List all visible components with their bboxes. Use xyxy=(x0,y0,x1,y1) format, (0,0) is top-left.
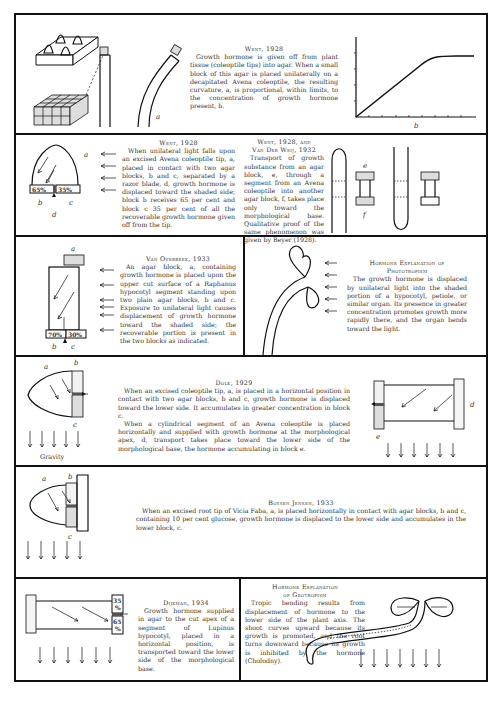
panel-phototropism: Hormone Explanation of Phototropism The … xyxy=(245,237,486,355)
panel-title-line1: Hormone Explanation of xyxy=(347,259,467,267)
svg-text:a: a xyxy=(71,245,75,253)
svg-text:35%: 35% xyxy=(58,186,72,193)
transport-illustration: e f xyxy=(242,135,486,235)
svg-text:d: d xyxy=(470,401,475,409)
panel-title: Van Overbeek, 1933 xyxy=(120,255,236,263)
panel-dolk-1929: a b c d e Gravity Dolk, 1929 When an exc… xyxy=(16,357,486,465)
svg-text:30%: 30% xyxy=(68,331,82,338)
svg-text:c: c xyxy=(73,421,77,429)
svg-text:65%: 65% xyxy=(32,186,46,193)
panel-text: The growth hormone is displaced by unila… xyxy=(347,275,467,332)
panel-went-1928-curvature: a b Went, 1928 Growth hormone is given o… xyxy=(16,15,486,133)
svg-text:e: e xyxy=(363,162,367,170)
svg-text:a: a xyxy=(44,363,48,371)
svg-text:e: e xyxy=(376,433,380,441)
panel-title-line2: Phototropism xyxy=(347,267,467,275)
figure-page: a b Went, 1928 Growth hormone is given o… xyxy=(14,13,488,682)
panel-geotropism: Hormone Explanation of Geotropism Tropic… xyxy=(241,579,486,682)
panel-text: Growth hormone is given off from plant t… xyxy=(190,53,338,110)
svg-text:a: a xyxy=(84,151,88,159)
panel-van-overbeek-1933: 70% 30% a b c Van Overbeek, 1933 An agar… xyxy=(16,237,242,355)
boysen-jensen-description: Boysen Jensen, 1933 When an excised root… xyxy=(136,499,466,532)
svg-text:c: c xyxy=(69,199,73,207)
svg-text:b: b xyxy=(52,343,57,351)
went-1928-light-description: Went, 1928 When unilateral light falls u… xyxy=(122,139,235,229)
dijkman-description: Dijkman, 1934 Growth hormone supplied in… xyxy=(138,599,234,673)
panel-text: When unilateral light falls upon an exci… xyxy=(122,147,235,229)
panel-title: Dijkman, 1934 xyxy=(138,599,234,607)
panel-text: An agar block, a, containing growth horm… xyxy=(120,263,236,345)
panel-text-1: When an excised coleoptile tip, a, is pl… xyxy=(118,387,350,420)
svg-text:a: a xyxy=(42,475,46,483)
svg-text:c: c xyxy=(71,343,75,351)
panel-text: When an excised root tip of Vicia Faba, … xyxy=(136,507,466,532)
went-1928-description: Went, 1928 Growth hormone is given off f… xyxy=(190,45,338,111)
panel-boysen-jensen-1933: a b c Boysen Jensen, 1933 When an excise… xyxy=(16,467,486,577)
panel-went-1928-light: 65% 35% b c d a Went, 1928 When unilater… xyxy=(16,135,241,235)
svg-text:70%: 70% xyxy=(48,331,62,338)
svg-text:c: c xyxy=(68,533,72,541)
van-overbeek-description: Van Overbeek, 1933 An agar block, a, con… xyxy=(120,255,236,345)
svg-text:35: 35 xyxy=(113,597,121,604)
dolk-description: Dolk, 1929 When an excised coleoptile ti… xyxy=(118,379,350,453)
panel-title: Went, 1928 xyxy=(122,139,235,147)
panel-dijkman-1934: 35 % 65 % Dijkman, 1934 Growth hormone s… xyxy=(16,579,238,682)
panel-title: Dolk, 1929 xyxy=(118,379,350,387)
svg-text:%: % xyxy=(115,604,121,611)
svg-text:b: b xyxy=(68,473,73,481)
panel-title: Boysen Jensen, 1933 xyxy=(136,499,466,507)
svg-text:b: b xyxy=(74,359,79,367)
gravity-label: Gravity xyxy=(40,453,64,461)
svg-text:%: % xyxy=(115,625,121,632)
svg-text:a: a xyxy=(156,113,160,121)
geotropism-seedling-illustration xyxy=(241,579,486,682)
svg-text:b: b xyxy=(414,122,419,130)
phototropism-description: Hormone Explanation of Phototropism The … xyxy=(347,259,467,333)
panel-text-2: When a cylindrical segment of an Avena c… xyxy=(118,420,350,453)
svg-text:b: b xyxy=(38,199,43,207)
svg-text:f: f xyxy=(362,211,367,219)
panel-went-van-der-weij: Went, 1928, and Van Der Weij, 1932 Trans… xyxy=(242,135,486,235)
svg-text:65: 65 xyxy=(113,618,121,625)
panel-title: Went, 1928 xyxy=(190,45,338,53)
svg-text:d: d xyxy=(52,211,57,219)
panel-text: Growth hormone supplied in agar to the c… xyxy=(138,607,234,673)
